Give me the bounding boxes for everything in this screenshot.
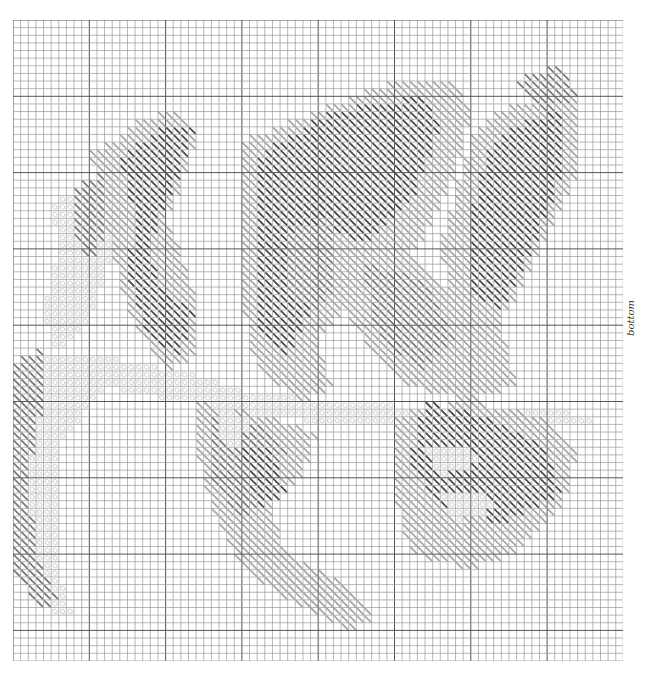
orientation-label: bottom — [625, 300, 636, 336]
stitch-grid — [13, 20, 623, 661]
cross-stitch-chart — [13, 20, 623, 661]
